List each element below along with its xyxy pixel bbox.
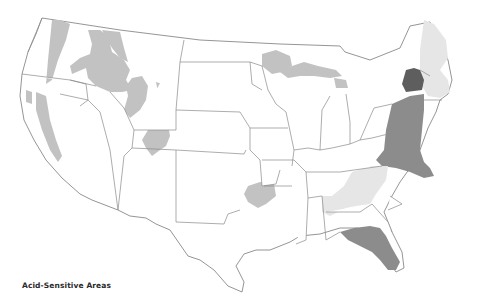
region-florida: [340, 226, 400, 270]
region-ca-coast: [26, 90, 32, 104]
shaded-regions: [26, 20, 450, 270]
region-sierra-nevada: [36, 92, 62, 162]
region-new-england: [420, 20, 450, 98]
region-cascades: [46, 20, 70, 84]
region-michigan-lp: [334, 78, 348, 88]
map-title: Acid-Sensitive Areas: [22, 281, 111, 290]
state-borders: [22, 18, 442, 244]
us-acid-sensitive-map: [0, 0, 484, 307]
